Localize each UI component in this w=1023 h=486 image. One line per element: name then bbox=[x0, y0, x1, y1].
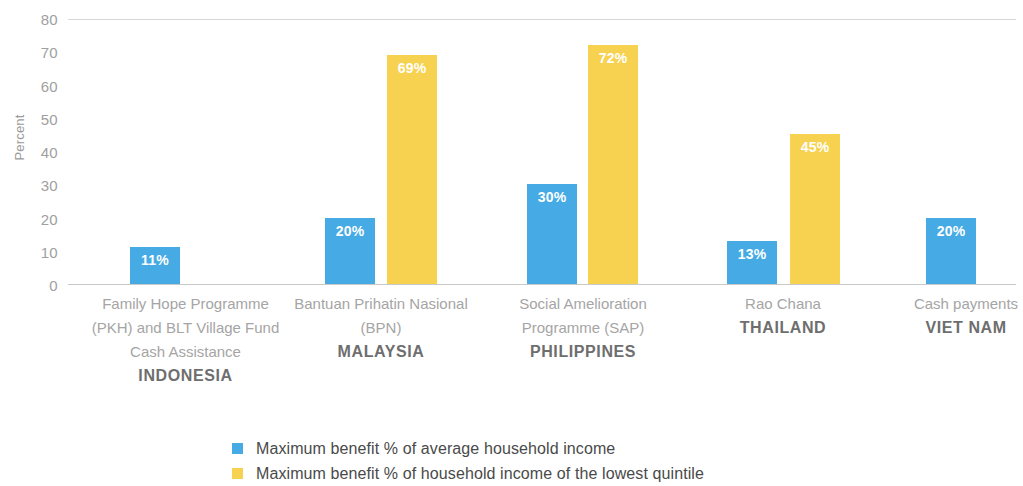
y-tick-0: 0 bbox=[12, 277, 58, 294]
bar-philippines-blue[interactable]: 30% bbox=[527, 184, 577, 284]
y-tick-50: 50 bbox=[12, 110, 58, 127]
programme-name-malaysia: Bantuan Prihatin Nasional (BPN) bbox=[283, 292, 479, 340]
y-tick-80: 80 bbox=[12, 11, 58, 28]
bar-malaysia-yellow[interactable]: 69% bbox=[387, 55, 437, 284]
bar-value-philippines-blue: 30% bbox=[527, 189, 577, 205]
bar-value-malaysia-yellow: 69% bbox=[387, 60, 437, 76]
bar-thailand-yellow[interactable]: 45% bbox=[790, 134, 840, 284]
legend-label-lowest-quintile: Maximum benefit % of household income of… bbox=[256, 465, 704, 483]
y-tick-60: 60 bbox=[12, 77, 58, 94]
bar-value-philippines-yellow: 72% bbox=[588, 50, 638, 66]
axis-baseline bbox=[68, 284, 1016, 285]
legend-label-average-household-income: Maximum benefit % of average household i… bbox=[256, 440, 615, 458]
y-axis-ticks: 80 70 60 50 40 30 20 10 0 bbox=[0, 19, 58, 285]
bar-malaysia-blue[interactable]: 20% bbox=[325, 218, 375, 285]
bar-value-indonesia-blue: 11% bbox=[130, 252, 180, 268]
legend-item-average-household-income[interactable]: Maximum benefit % of average household i… bbox=[232, 436, 1016, 461]
category-vietnam: Cash payments VIET NAM bbox=[876, 292, 1023, 340]
bar-vietnam-blue[interactable]: 20% bbox=[926, 218, 976, 285]
category-indonesia: Family Hope Programme (PKH) and BLT Vill… bbox=[88, 292, 283, 388]
bar-thailand-blue[interactable]: 13% bbox=[727, 241, 777, 284]
category-philippines: Social Amelioration Programme (SAP) PHIL… bbox=[480, 292, 686, 364]
programme-name-indonesia: Family Hope Programme (PKH) and BLT Vill… bbox=[88, 292, 283, 364]
programme-name-philippines: Social Amelioration Programme (SAP) bbox=[480, 292, 686, 340]
y-tick-10: 10 bbox=[12, 243, 58, 260]
programme-name-vietnam: Cash payments bbox=[876, 292, 1023, 316]
country-name-thailand: THAILAND bbox=[693, 316, 873, 340]
category-malaysia: Bantuan Prihatin Nasional (BPN) MALAYSIA bbox=[283, 292, 479, 364]
country-name-indonesia: INDONESIA bbox=[88, 364, 283, 388]
bar-philippines-yellow[interactable]: 72% bbox=[588, 45, 638, 284]
legend-swatch-yellow bbox=[232, 468, 243, 479]
bar-value-malaysia-blue: 20% bbox=[325, 223, 375, 239]
y-tick-20: 20 bbox=[12, 210, 58, 227]
country-name-philippines: PHILIPPINES bbox=[480, 340, 686, 364]
category-labels: Family Hope Programme (PKH) and BLT Vill… bbox=[68, 292, 1016, 422]
y-tick-30: 30 bbox=[12, 177, 58, 194]
country-name-vietnam: VIET NAM bbox=[876, 316, 1023, 340]
y-tick-40: 40 bbox=[12, 144, 58, 161]
bar-value-vietnam-blue: 20% bbox=[926, 223, 976, 239]
bar-value-thailand-blue: 13% bbox=[727, 246, 777, 262]
y-tick-70: 70 bbox=[12, 44, 58, 61]
legend-swatch-blue bbox=[232, 443, 243, 454]
programme-name-thailand: Rao Chana bbox=[693, 292, 873, 316]
plot-area: 11% 20% 69% 30% 72% 13% 45% 20% bbox=[68, 19, 1016, 285]
gridline-80 bbox=[68, 19, 1016, 20]
legend: Maximum benefit % of average household i… bbox=[232, 436, 1016, 486]
country-name-malaysia: MALAYSIA bbox=[283, 340, 479, 364]
legend-item-lowest-quintile[interactable]: Maximum benefit % of household income of… bbox=[232, 461, 1016, 486]
bar-value-thailand-yellow: 45% bbox=[790, 139, 840, 155]
bar-indonesia-blue[interactable]: 11% bbox=[130, 247, 180, 284]
category-thailand: Rao Chana THAILAND bbox=[693, 292, 873, 340]
